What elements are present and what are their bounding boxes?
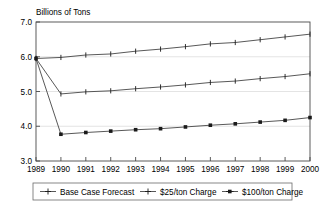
xtick-label-8: 1997 (226, 165, 245, 174)
square-marker-icon (233, 122, 237, 126)
ytick-label-7: 7.0 (21, 18, 33, 27)
square-marker-icon (209, 123, 213, 127)
square-marker-icon (308, 116, 312, 120)
xtick-label-1: 1990 (52, 165, 71, 174)
square-marker-icon (184, 125, 188, 129)
square-marker-icon (109, 129, 113, 133)
square-marker-icon (84, 131, 88, 135)
line-chart: Billions of Tons 7.0 6.0 5.0 4.0 3.0 (0, 0, 326, 207)
xtick-label-6: 1995 (176, 165, 195, 174)
legend-label-0: Base Case Forecast (60, 188, 135, 197)
chart-svg: Billions of Tons 7.0 6.0 5.0 4.0 3.0 (0, 0, 326, 207)
xtick-label-0: 1989 (27, 165, 46, 174)
square-marker-icon (283, 119, 287, 123)
square-marker-icon (34, 57, 38, 61)
chart-title: Billions of Tons (36, 8, 90, 17)
ytick-label-5: 5.0 (21, 88, 33, 97)
xtick-label-4: 1993 (127, 165, 146, 174)
xtick-label-9: 1998 (251, 165, 270, 174)
chart-background (0, 0, 326, 207)
xtick-label-3: 1992 (102, 165, 121, 174)
legend-label-1: $25/ton Charge (160, 188, 217, 197)
xtick-label-2: 1991 (77, 165, 96, 174)
ytick-label-4: 4.0 (21, 122, 33, 131)
xtick-label-7: 1996 (201, 165, 220, 174)
square-marker-icon (134, 128, 138, 132)
ytick-label-6: 6.0 (21, 53, 33, 62)
xtick-label-10: 1999 (276, 165, 295, 174)
square-marker-icon (59, 132, 63, 136)
legend-label-2: $100/ton Charge (242, 188, 303, 197)
square-marker-icon (258, 120, 262, 124)
xtick-label-11: 2000 (301, 165, 320, 174)
square-marker-icon (159, 127, 163, 131)
xtick-label-5: 1994 (151, 165, 170, 174)
